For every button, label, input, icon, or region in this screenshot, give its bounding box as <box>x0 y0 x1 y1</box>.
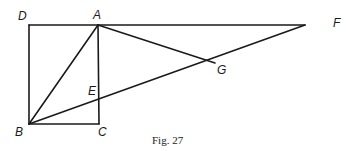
label-C: C <box>98 126 107 138</box>
geometry-diagram <box>0 0 358 151</box>
segment-AC <box>98 25 99 124</box>
segment-AB <box>29 25 98 124</box>
label-D: D <box>18 10 27 22</box>
segment-AG <box>98 25 215 63</box>
figure-canvas: D A F E G B C Fig. 27 <box>0 0 358 151</box>
label-A: A <box>93 9 101 21</box>
label-B: B <box>15 126 23 138</box>
label-E: E <box>88 85 96 97</box>
label-G: G <box>217 64 226 76</box>
figure-caption: Fig. 27 <box>152 135 183 146</box>
label-F: F <box>333 17 340 29</box>
segment-BF <box>29 25 305 124</box>
